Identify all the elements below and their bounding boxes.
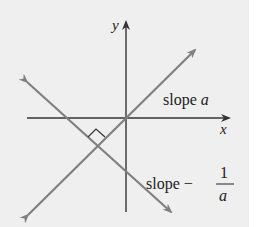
label-slope-a: slope a — [163, 91, 209, 109]
x-axis-label: x — [219, 121, 227, 137]
perpendicular-lines-diagram: y x slope a slope − 1 a — [0, 0, 262, 227]
fraction-denominator: a — [219, 187, 227, 204]
y-axis-label: y — [110, 17, 119, 33]
fraction-numerator: 1 — [220, 164, 228, 181]
line-slope-neg-recip — [27, 82, 171, 212]
right-angle-marker — [88, 129, 105, 137]
diagram-frame: y x slope a slope − 1 a — [0, 0, 262, 227]
label-slope-neg-recip: slope − — [146, 175, 193, 193]
